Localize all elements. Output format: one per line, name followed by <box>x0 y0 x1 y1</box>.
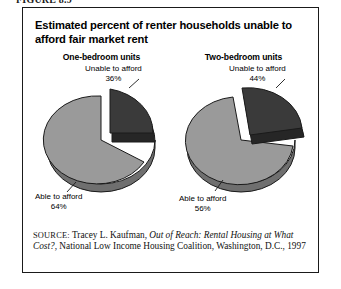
label-unable-text-two-bedroom: Unable to afford <box>229 64 286 73</box>
chart-subtitle-one-bedroom: One-bedroom units <box>29 52 174 62</box>
pie-svg-one-bedroom <box>29 78 174 203</box>
source-author: Tracey L. Kaufman, <box>70 230 150 240</box>
figure-caption: FIGURE 8.9 <box>16 0 72 5</box>
source-citation: SOURCE: Tracey L. Kaufman, Out of Reach:… <box>33 230 311 253</box>
label-able-text-one-bedroom: Able to afford <box>35 192 82 201</box>
pie-graphic-one-bedroom <box>29 78 174 203</box>
pie-chart-one-bedroom: One-bedroom units U <box>29 52 174 232</box>
label-unable-pct-two-bedroom: 44% <box>229 74 286 84</box>
label-unable-one-bedroom: Unable to afford 36% <box>85 64 142 84</box>
label-able-one-bedroom: Able to afford 64% <box>35 192 82 212</box>
label-unable-text-one-bedroom: Unable to afford <box>85 64 142 73</box>
pie-slice-unable-one-bedroom <box>110 89 153 133</box>
figure-frame: Estimated percent of renter households u… <box>22 7 319 273</box>
label-able-pct-two-bedroom: 56% <box>179 204 226 214</box>
label-unable-pct-one-bedroom: 36% <box>85 74 142 84</box>
pie-chart-two-bedroom: Two-bedroom units U <box>171 52 316 232</box>
charts-container: One-bedroom units U <box>23 52 318 232</box>
label-able-two-bedroom: Able to afford 56% <box>179 194 226 214</box>
label-able-pct-one-bedroom: 64% <box>35 202 82 212</box>
page-title: Estimated percent of renter households u… <box>35 18 303 46</box>
source-tag: SOURCE: <box>33 231 70 240</box>
pie-svg-two-bedroom <box>171 78 316 203</box>
chart-subtitle-two-bedroom: Two-bedroom units <box>171 52 316 62</box>
label-able-text-two-bedroom: Able to afford <box>179 194 226 203</box>
pie-slice-unable-two-bedroom <box>242 88 302 135</box>
source-publisher: , National Low Income Housing Coalition,… <box>55 241 306 251</box>
label-unable-two-bedroom: Unable to afford 44% <box>229 64 286 84</box>
pie-graphic-two-bedroom <box>171 78 316 203</box>
